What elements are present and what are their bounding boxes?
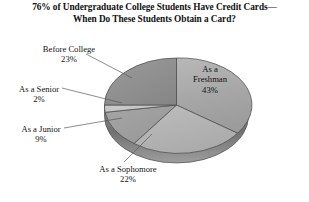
label-freshman-name-line-1: As a bbox=[168, 64, 252, 74]
label-senior-percent: 2% bbox=[2, 94, 76, 104]
label-sophomore-percent: 22% bbox=[78, 174, 178, 184]
label-before-college: Before College 23% bbox=[26, 44, 112, 64]
pie-slice-before-college[interactable] bbox=[105, 58, 177, 105]
label-before-college-name: Before College bbox=[26, 44, 112, 54]
chart-plot-area: Before College 23% As a Senior 2% As a J… bbox=[0, 30, 309, 202]
label-junior: As a Junior 9% bbox=[4, 124, 78, 144]
label-before-college-percent: 23% bbox=[26, 54, 112, 64]
label-senior-name: As a Senior bbox=[2, 84, 76, 94]
label-sophomore-name: As a Sophomore bbox=[78, 164, 178, 174]
label-senior: As a Senior 2% bbox=[2, 84, 76, 104]
chart-title-line-2: When Do These Students Obtain a Card? bbox=[0, 14, 309, 26]
label-freshman: As a Freshman 43% bbox=[168, 64, 252, 95]
chart-title-line-1: 76% of Undergraduate College Students Ha… bbox=[0, 2, 309, 14]
pie-chart-figure: 76% of Undergraduate College Students Ha… bbox=[0, 0, 309, 202]
label-junior-percent: 9% bbox=[4, 134, 78, 144]
label-sophomore: As a Sophomore 22% bbox=[78, 164, 178, 184]
label-freshman-name-line-2: Freshman bbox=[168, 74, 252, 84]
label-freshman-percent: 43% bbox=[168, 85, 252, 95]
label-junior-name: As a Junior bbox=[4, 124, 78, 134]
chart-title: 76% of Undergraduate College Students Ha… bbox=[0, 2, 309, 25]
